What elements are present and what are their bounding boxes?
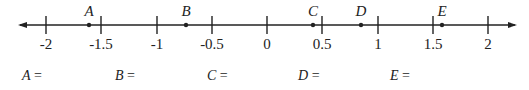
equals-sign: = [399,68,410,83]
left-arrow-icon [18,22,27,28]
answer-row: A =B =C =D =E = [0,68,529,88]
answer-variable: C [207,68,216,83]
answer-variable: E [390,68,399,83]
tick-label: -0.5 [200,36,224,53]
right-arrow-icon [508,22,517,28]
point-marker [440,23,444,27]
equals-sign: = [31,68,42,83]
answer-blank: B = [115,68,135,84]
tick-label: 0.5 [313,36,332,53]
point-label: C [308,3,318,20]
point-label: A [84,3,93,20]
tick-label: 0 [263,36,271,53]
answer-variable: A [22,68,31,83]
point-marker [359,23,363,27]
equals-sign: = [216,68,227,83]
point-label: E [437,3,446,20]
answer-variable: D [298,68,308,83]
tick-label: -1 [151,36,164,53]
point-label: B [181,3,190,20]
equals-sign: = [124,68,135,83]
tick-label: 1 [374,36,382,53]
tick-label: 1.5 [424,36,443,53]
answer-blank: A = [22,68,42,84]
point-marker [87,23,91,27]
equals-sign: = [308,68,319,83]
point-label: D [356,3,367,20]
tick-label: -1.5 [89,36,113,53]
tick-label: 2 [484,36,492,53]
answer-blank: E = [390,68,410,84]
tick-label: -2 [40,36,53,53]
answer-blank: C = [207,68,228,84]
point-marker [311,23,315,27]
point-marker [184,23,188,27]
answer-variable: B [115,68,124,83]
answer-blank: D = [298,68,320,84]
